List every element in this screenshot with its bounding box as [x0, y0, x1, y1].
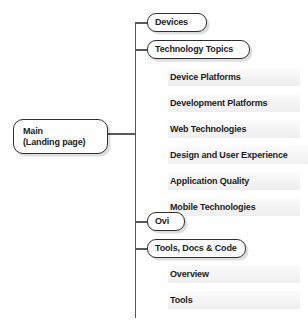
node-main[interactable]: Main (Landing page) [13, 119, 108, 154]
node-tools-docs-code[interactable]: Tools, Docs & Code [147, 239, 246, 258]
node-devices-label: Devices [148, 17, 206, 28]
subitem-web-technologies[interactable]: Web Technologies [168, 120, 300, 138]
node-tools-docs-code-label: Tools, Docs & Code [148, 243, 245, 254]
connector-main-to-trunk [108, 133, 136, 135]
node-technology-topics[interactable]: Technology Topics [147, 40, 250, 59]
node-main-title: Main [14, 126, 107, 137]
subitem-device-platforms[interactable]: Device Platforms [168, 68, 300, 86]
node-technology-topics-label: Technology Topics [148, 44, 249, 55]
node-ovi-label: Ovi [148, 216, 184, 227]
site-map-diagram: Main (Landing page) Devices Technology T… [0, 0, 308, 326]
node-devices[interactable]: Devices [147, 13, 207, 32]
subitem-tools-label: Tools [168, 295, 193, 305]
subitem-design-and-user-experience-label: Design and User Experience [168, 150, 288, 160]
connector-trunk-vertical [135, 22, 137, 318]
subitem-tools[interactable]: Tools [168, 291, 300, 309]
node-main-subtitle: (Landing page) [14, 137, 107, 148]
subitem-overview[interactable]: Overview [168, 265, 300, 283]
subitem-device-platforms-label: Device Platforms [168, 72, 241, 82]
subitem-application-quality[interactable]: Application Quality [168, 172, 300, 190]
subitem-development-platforms-label: Development Platforms [168, 98, 267, 108]
subitem-overview-label: Overview [168, 269, 209, 279]
subitem-application-quality-label: Application Quality [168, 176, 249, 186]
subitem-web-technologies-label: Web Technologies [168, 124, 246, 134]
subitem-development-platforms[interactable]: Development Platforms [168, 94, 300, 112]
subitem-design-and-user-experience[interactable]: Design and User Experience [168, 146, 308, 164]
subitem-mobile-technologies-label: Mobile Technologies [168, 202, 256, 212]
node-ovi[interactable]: Ovi [147, 212, 185, 231]
subitem-mobile-technologies[interactable]: Mobile Technologies [168, 198, 300, 216]
